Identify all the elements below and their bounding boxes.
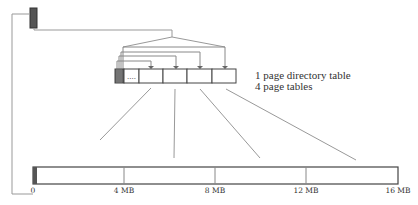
- tick-label-12mb: 12 MB: [293, 186, 319, 195]
- page-directory-block: [115, 69, 124, 83]
- legend-line-page-tables: 4 page tables: [255, 81, 351, 92]
- tick-label-16mb: 16 MB: [385, 186, 411, 195]
- cr3-register: [30, 8, 37, 28]
- tick-label-8mb: 8 MB: [205, 186, 226, 195]
- directory-pointers: [117, 47, 225, 69]
- page-table-1: [139, 69, 163, 83]
- memory-start-block: [33, 167, 37, 184]
- page-table-3: [187, 69, 212, 83]
- page-table-4: [212, 69, 236, 83]
- page-table-row: ....: [115, 69, 236, 83]
- register-to-memory-line: [12, 14, 33, 194]
- register-to-directory-line: [34, 28, 172, 37]
- fan-line-right: [172, 37, 225, 47]
- physical-memory-bar: [33, 167, 398, 184]
- mapping-lines: [100, 88, 356, 160]
- paging-diagram: .... 0 4 MB 8 MB 12 MB 16 MB: [0, 0, 418, 205]
- ellipsis-text: ....: [127, 73, 136, 81]
- fan-line-left: [123, 37, 172, 47]
- tick-label-4mb: 4 MB: [114, 186, 135, 195]
- legend: 1 page directory table 4 page tables: [255, 70, 351, 92]
- tick-label-0: 0: [31, 186, 36, 195]
- page-table-2: [163, 69, 187, 83]
